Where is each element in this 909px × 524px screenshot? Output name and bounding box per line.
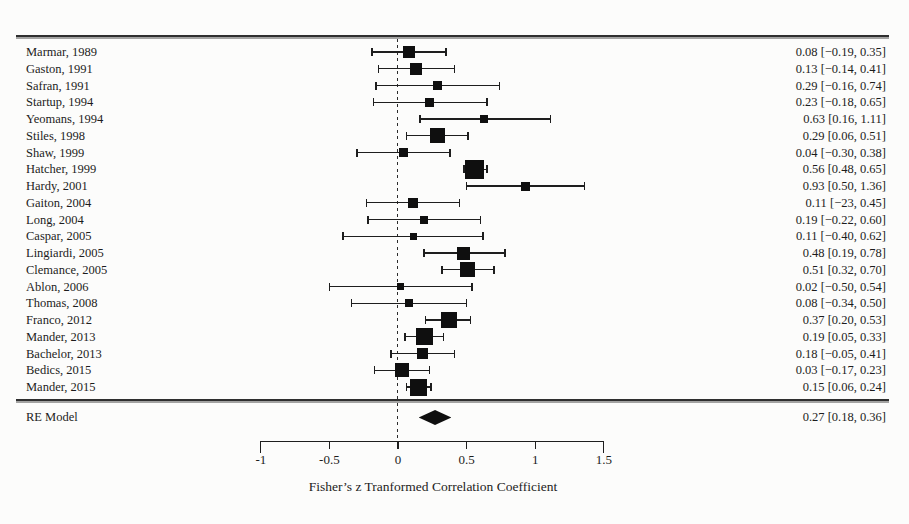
ci-cap-right (443, 333, 444, 341)
point-marker (441, 312, 457, 328)
point-marker (430, 128, 445, 143)
summary-separator-rule (16, 399, 889, 401)
x-axis-title: Fisher’s z Tranformed Correlation Coeffi… (261, 479, 605, 495)
study-label: Clemance, 2005 (26, 264, 107, 277)
ci-cap-left (466, 182, 467, 190)
study-label: Gaiton, 2004 (26, 197, 91, 210)
study-estimate-annotation: 0.13 [−0.14, 0.41] (796, 63, 886, 76)
study-estimate-annotation: 0.29 [−0.16, 0.74] (796, 79, 886, 92)
ci-cap-right (466, 299, 467, 307)
study-label: Franco, 2012 (26, 314, 92, 327)
ci-cap-right (454, 350, 455, 358)
ci-cap-left (367, 216, 368, 224)
ci-cap-right (429, 366, 430, 374)
study-label: Shaw, 1999 (26, 146, 84, 159)
study-estimate-annotation: 0.29 [0.06, 0.51] (803, 130, 886, 143)
study-estimate-annotation: 0.08 [−0.19, 0.35] (796, 46, 886, 59)
study-label: Caspar, 2005 (26, 230, 91, 243)
x-axis-line (261, 441, 604, 442)
ci-cap-right (471, 283, 472, 291)
study-label: Yeomans, 1994 (26, 113, 103, 126)
point-marker (410, 379, 427, 396)
ci-cap-left (390, 350, 391, 358)
ci-cap-left (441, 266, 442, 274)
point-marker (433, 81, 442, 90)
ci-cap-left (375, 82, 376, 90)
study-estimate-annotation: 0.63 [0.16, 1.11] (803, 113, 886, 126)
point-marker (403, 46, 415, 58)
study-estimate-annotation: 0.19 [0.05, 0.33] (803, 331, 886, 344)
point-marker (410, 63, 422, 75)
ci-cap-right (449, 149, 450, 157)
point-marker (420, 216, 428, 224)
study-estimate-annotation: 0.18 [−0.05, 0.41] (796, 347, 886, 360)
ci-cap-left (463, 165, 464, 173)
ci-cap-right (550, 115, 551, 123)
ci-cap-right (493, 266, 494, 274)
ci-cap-left (406, 132, 407, 140)
x-axis-tick (329, 441, 330, 449)
ci-cap-right (480, 216, 481, 224)
study-label: Startup, 1994 (26, 96, 93, 109)
study-label: Long, 2004 (26, 213, 84, 226)
study-estimate-annotation: 0.11 [−23, 0.45] (805, 197, 886, 210)
study-estimate-annotation: 0.08 [−0.34, 0.50] (796, 297, 886, 310)
ci-cap-left (351, 299, 352, 307)
ci-cap-right (430, 383, 431, 391)
ci-cap-right (445, 48, 446, 56)
point-marker (397, 283, 404, 290)
x-axis-tick-label: 0 (376, 452, 420, 468)
point-marker (410, 233, 417, 240)
x-axis-tick-label: 1.5 (582, 452, 626, 468)
ci-cap-left (423, 249, 424, 257)
study-estimate-annotation: 0.48 [0.19, 0.78] (803, 247, 886, 260)
x-axis-tick (397, 441, 398, 449)
ci-cap-left (342, 232, 343, 240)
ci-cap-left (329, 283, 330, 291)
ci-cap-right (486, 98, 487, 106)
zero-reference-line (397, 39, 398, 442)
ci-cap-left (373, 98, 374, 106)
ci-cap-left (371, 48, 372, 56)
ci-cap-right (482, 232, 483, 240)
x-axis-tick-label: 0.5 (445, 452, 489, 468)
study-estimate-annotation: 0.93 [0.50, 1.36] (803, 180, 886, 193)
study-estimate-annotation: 0.19 [−0.22, 0.60] (796, 213, 886, 226)
point-marker (417, 348, 428, 359)
study-label: Safran, 1991 (26, 79, 90, 92)
ci-cap-left (425, 316, 426, 324)
x-axis-tick (535, 441, 536, 449)
top-rule (16, 35, 889, 37)
study-estimate-annotation: 0.15 [0.06, 0.24] (803, 381, 886, 394)
study-label: Bedics, 2015 (26, 364, 91, 377)
point-marker (408, 198, 418, 208)
ci-cap-right (467, 132, 468, 140)
study-label: Stiles, 1998 (26, 130, 85, 143)
summary-label: RE Model (26, 410, 78, 425)
study-label: Mander, 2013 (26, 331, 96, 344)
study-label: Thomas, 2008 (26, 297, 98, 310)
ci-cap-left (374, 366, 375, 374)
study-label: Lingiardi, 2005 (26, 247, 104, 260)
x-axis-tick (466, 441, 467, 449)
ci-cap-right (504, 249, 505, 257)
study-label: Hatcher, 1999 (26, 163, 96, 176)
x-axis-tick-label: 1 (513, 452, 557, 468)
x-axis-tick-label: -1 (239, 452, 283, 468)
point-marker (480, 115, 488, 123)
point-marker (460, 262, 475, 277)
ci-cap-left (406, 383, 407, 391)
study-estimate-annotation: 0.02 [−0.50, 0.54] (796, 280, 886, 293)
point-marker (405, 299, 413, 307)
point-marker (425, 98, 434, 107)
study-estimate-annotation: 0.04 [−0.30, 0.38] (796, 146, 886, 159)
point-marker (395, 363, 409, 377)
study-label: Gaston, 1991 (26, 63, 93, 76)
ci-cap-right (499, 82, 500, 90)
ci-cap-left (356, 149, 357, 157)
x-axis-tick-label: -0.5 (307, 452, 351, 468)
ci-cap-left (378, 65, 379, 73)
ci-cap-right (454, 65, 455, 73)
ci-cap-left (419, 115, 420, 123)
ci-cap-right (459, 199, 460, 207)
